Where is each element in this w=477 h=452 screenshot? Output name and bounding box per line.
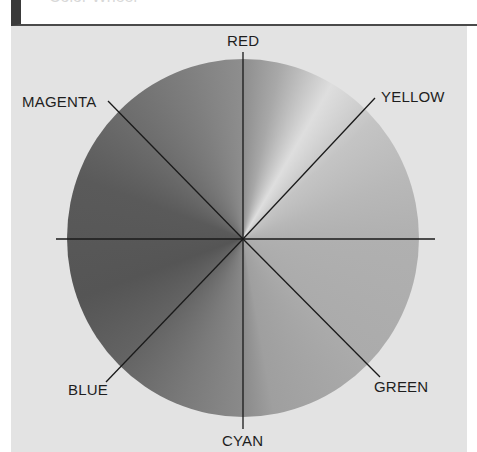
label-red: RED bbox=[227, 32, 259, 49]
yellow-pointer-line bbox=[243, 98, 375, 239]
label-cyan: CYAN bbox=[222, 432, 263, 449]
label-yellow: YELLOW bbox=[381, 88, 445, 105]
label-magenta: MAGENTA bbox=[22, 93, 96, 110]
green-pointer-line bbox=[243, 239, 380, 377]
label-green: GREEN bbox=[374, 378, 428, 395]
blue-pointer-line bbox=[106, 239, 243, 382]
label-blue: BLUE bbox=[68, 381, 108, 398]
magenta-pointer-line bbox=[108, 101, 243, 239]
